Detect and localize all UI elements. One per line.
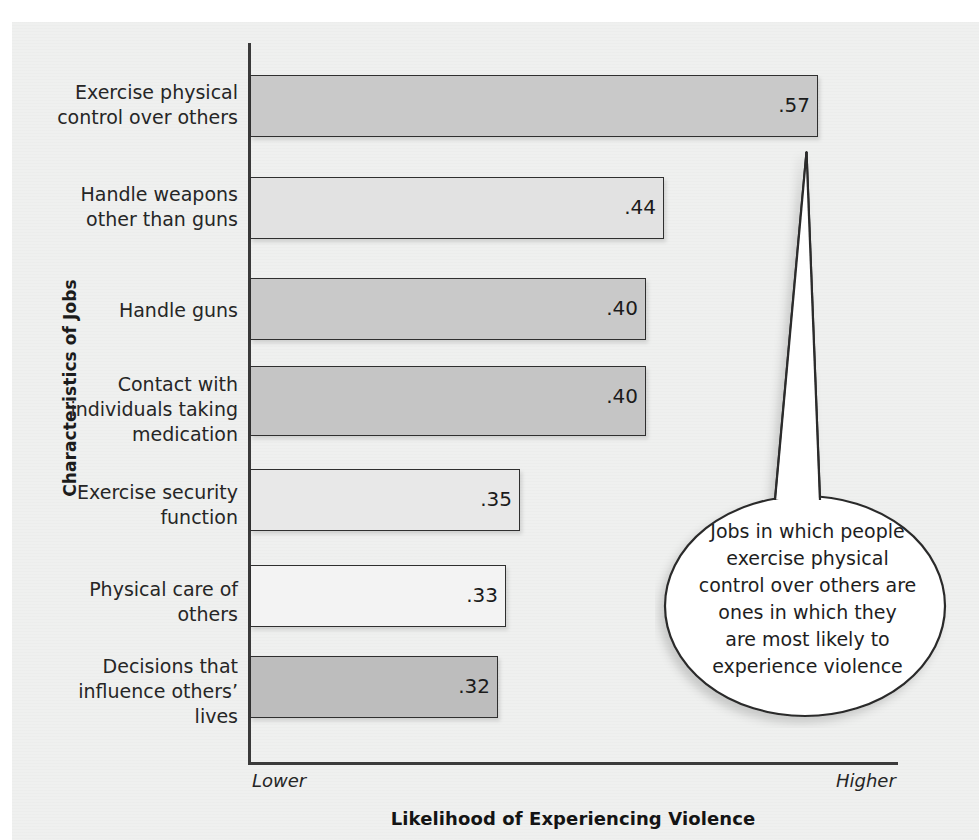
bar-handle-weapons: .44 — [250, 177, 664, 239]
bar-physical-care-of-others: .33 — [250, 565, 506, 627]
bar-decisions-influence-others-lives: .32 — [250, 656, 498, 718]
category-label-decisions-influence-others-lives: Decisions that influence others’ lives — [78, 654, 238, 729]
bar-value-label: .44 — [624, 195, 656, 219]
category-label-exercise-security-function: Exercise security function — [77, 480, 238, 530]
figure-page: Characteristics of Jobs Exercise physica… — [0, 0, 979, 840]
bar-value-label: .33 — [466, 583, 498, 607]
bar-value-label: .57 — [778, 93, 810, 117]
x-axis-tick-lower: Lower — [252, 770, 306, 791]
x-axis-tick-higher: Higher — [836, 770, 896, 791]
bar-contact-individuals-medication: .40 — [250, 366, 646, 436]
category-label-exercise-physical-control: Exercise physical control over others — [57, 80, 238, 130]
category-label-physical-care-of-others: Physical care of others — [89, 577, 238, 627]
bar-value-label: .40 — [606, 384, 638, 408]
x-axis-title: Likelihood of Experiencing Violence — [248, 808, 898, 829]
bar-handle-guns: .40 — [250, 278, 646, 340]
bar-value-label: .40 — [606, 296, 638, 320]
category-label-handle-guns: Handle guns — [119, 298, 238, 323]
bar-exercise-physical-control: .57 — [250, 75, 818, 137]
bar-exercise-security-function: .35 — [250, 469, 520, 531]
bar-value-label: .32 — [458, 674, 490, 698]
category-label-handle-weapons: Handle weapons other than guns — [80, 182, 238, 232]
x-axis-line — [248, 762, 898, 765]
bar-value-label: .35 — [480, 487, 512, 511]
category-label-contact-individuals-medication: Contact with individuals taking medicati… — [70, 372, 238, 447]
